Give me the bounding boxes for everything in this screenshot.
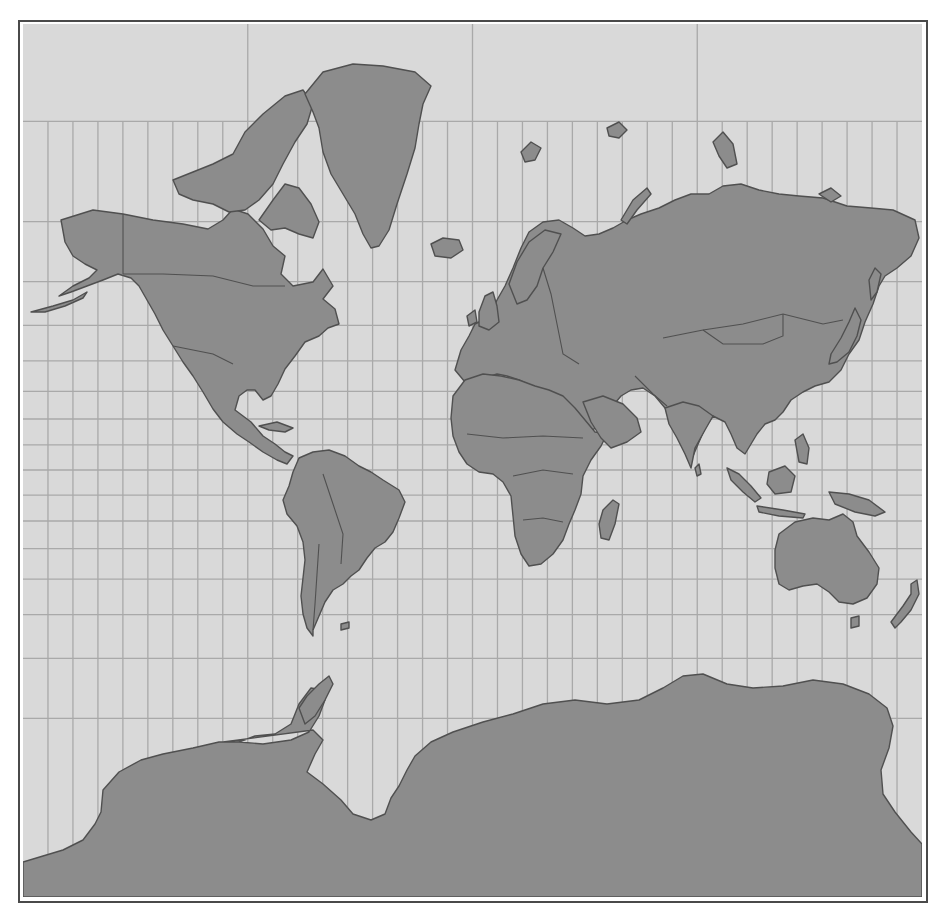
landmass-tasmania[interactable] <box>851 616 859 628</box>
world-map[interactable] <box>23 24 922 897</box>
landmass-falklands[interactable] <box>341 622 349 630</box>
